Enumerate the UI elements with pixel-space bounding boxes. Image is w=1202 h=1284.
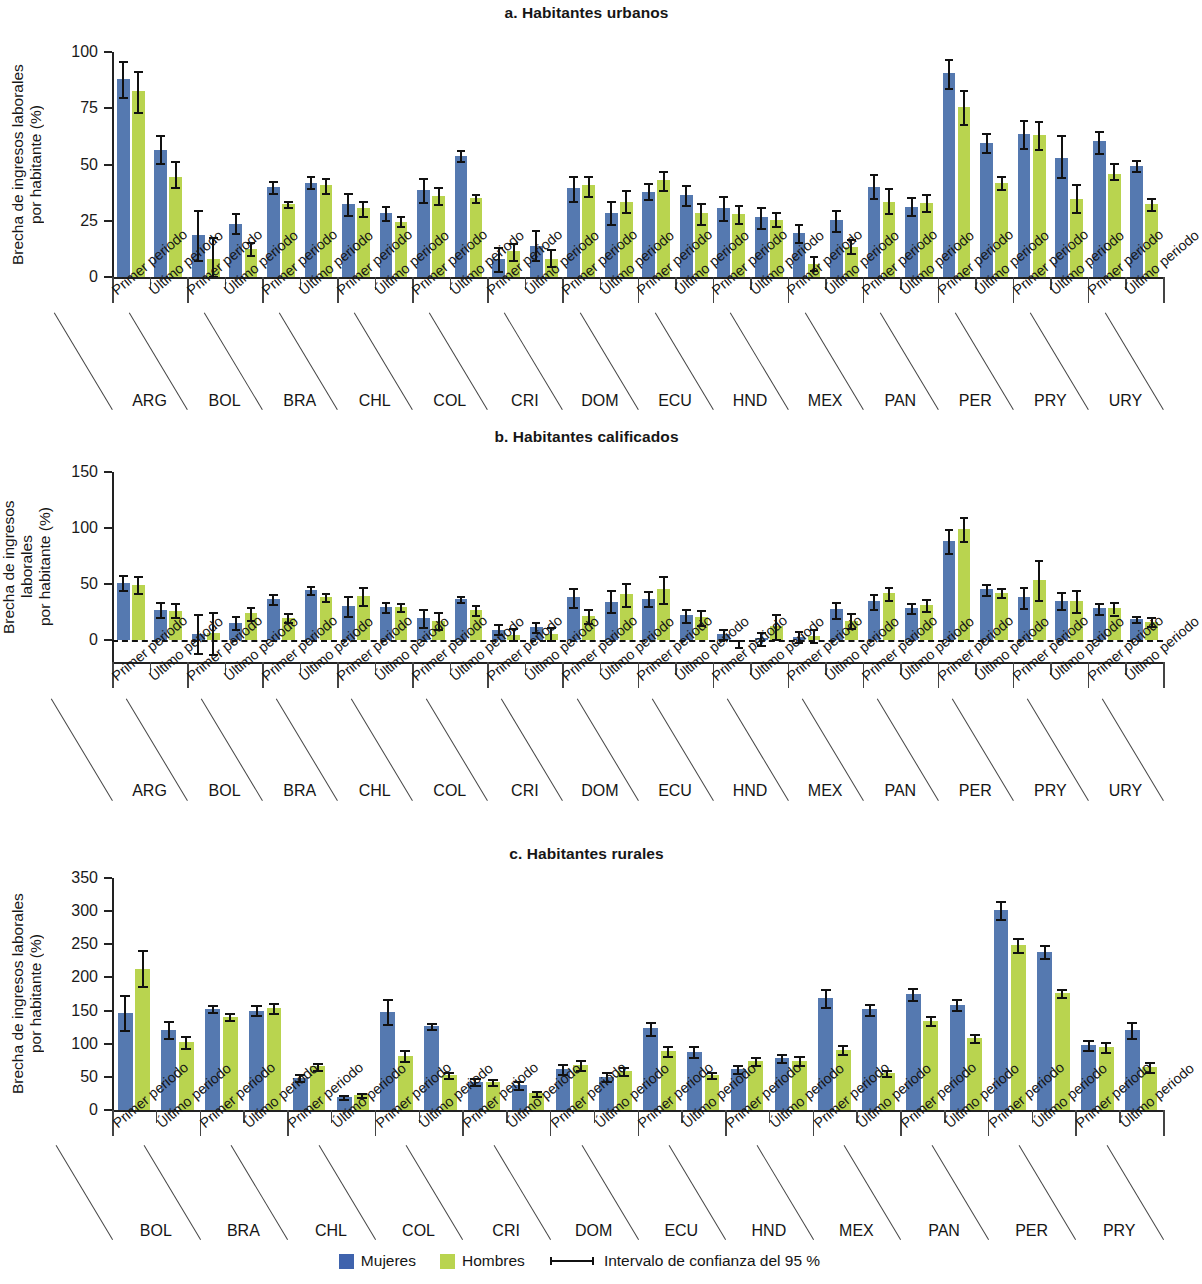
- error-bar-cap: [982, 584, 991, 586]
- error-bar-cap: [1147, 210, 1156, 212]
- error-bar-cap: [269, 181, 278, 183]
- error-bar-cap: [344, 215, 353, 217]
- error-bar-cap: [1095, 131, 1104, 133]
- x-axis-country-code: BOL: [140, 1222, 172, 1240]
- error-bar-cap: [181, 1048, 191, 1050]
- error-bar: [1038, 121, 1040, 149]
- error-bar-cap: [1035, 600, 1044, 602]
- x-axis-country-code: CRI: [511, 392, 539, 410]
- error-bar-cap: [1057, 592, 1066, 594]
- error-bar-cap: [359, 201, 368, 203]
- error-bar-cap: [119, 61, 128, 63]
- error-bar-cap: [622, 583, 631, 585]
- y-tick-label: 0: [0, 268, 98, 286]
- y-tick-mark: [104, 1109, 112, 1111]
- y-tick-label: 300: [0, 902, 98, 920]
- error-bar-cap: [269, 1003, 279, 1005]
- error-bar-cap: [997, 597, 1006, 599]
- x-axis-country-code: HND: [733, 392, 768, 410]
- error-bar-cap: [682, 205, 691, 207]
- y-tick-mark: [104, 1043, 112, 1045]
- error-bar-cap: [344, 616, 353, 618]
- error-bar-cap: [383, 1024, 393, 1026]
- x-axis-country-code: CHL: [315, 1222, 347, 1240]
- error-bar-cap: [644, 183, 653, 185]
- error-bar-cap: [960, 517, 969, 519]
- y-tick-label: 200: [0, 968, 98, 986]
- error-bar-cap: [772, 212, 781, 214]
- error-bar-cap: [1147, 198, 1156, 200]
- x-axis-country-code: BRA: [227, 1222, 260, 1240]
- error-bar-cap: [232, 616, 241, 618]
- bar-mujeres: [117, 79, 130, 277]
- x-axis-country-code: HND: [733, 782, 768, 800]
- error-bar-cap: [832, 210, 841, 212]
- error-bar-cap: [1057, 135, 1066, 137]
- error-bar-cap: [885, 587, 894, 589]
- error-bar-cap: [1095, 603, 1104, 605]
- y-tick-label: 150: [0, 463, 98, 481]
- legend-item-hombres: Hombres: [440, 1252, 525, 1270]
- error-bar: [663, 171, 665, 190]
- error-bar-cap: [419, 178, 428, 180]
- error-bar-cap: [997, 176, 1006, 178]
- error-bar-cap: [659, 576, 668, 578]
- y-tick-label: 50: [0, 156, 98, 174]
- error-bar-cap: [472, 202, 481, 204]
- error-bar-cap: [232, 233, 241, 235]
- error-bar: [873, 174, 875, 199]
- y-tick-label: 25: [0, 212, 98, 230]
- error-bar: [347, 596, 349, 616]
- error-bar-cap: [907, 603, 916, 605]
- error-bar-cap: [659, 190, 668, 192]
- error-bar: [1001, 176, 1003, 190]
- error-bar-cap: [134, 593, 143, 595]
- error-bar-cap: [171, 187, 180, 189]
- error-bar-cap: [1020, 148, 1029, 150]
- error-bar-cap: [247, 607, 256, 609]
- error-bar-cap: [997, 588, 1006, 590]
- error-bar: [738, 205, 740, 223]
- error-bar-cap: [838, 1054, 848, 1056]
- error-bar-cap: [307, 586, 316, 588]
- y-tick-label: 75: [0, 99, 98, 117]
- error-bar-cap: [1132, 171, 1141, 173]
- group-separator: [54, 312, 113, 410]
- error-bar-cap: [134, 71, 143, 73]
- error-bar-cap: [644, 606, 653, 608]
- error-bar: [385, 206, 387, 220]
- x-axis-country-code: MEX: [808, 782, 843, 800]
- error-bar: [986, 133, 988, 152]
- error-bar-cap: [359, 216, 368, 218]
- x-axis-country-code: COL: [402, 1222, 435, 1240]
- y-tick-mark: [104, 877, 112, 879]
- error-bar-cap: [926, 1025, 936, 1027]
- figure-legend: Mujeres Hombres Intervalo de confianza d…: [0, 1252, 1173, 1270]
- error-bar-cap: [138, 950, 148, 952]
- error-bar-cap: [339, 1095, 349, 1097]
- error-bar: [347, 193, 349, 216]
- chart-title-b: b. Habitantes calificados: [0, 428, 1173, 446]
- error-bar-cap: [908, 988, 918, 990]
- error-bar-cap: [960, 541, 969, 543]
- error-bar: [835, 210, 837, 231]
- error-bar-cap: [119, 590, 128, 592]
- x-axis-country-code: MEX: [839, 1222, 874, 1240]
- y-tick-mark: [104, 976, 112, 978]
- error-bar: [926, 194, 928, 211]
- error-bar-cap: [945, 59, 954, 61]
- error-bar-cap: [134, 576, 143, 578]
- error-bar: [648, 183, 650, 200]
- error-bar-cap: [576, 1060, 586, 1062]
- error-bar-cap: [663, 1046, 673, 1048]
- y-tick-mark: [104, 51, 112, 53]
- error-bar-cap: [457, 596, 466, 598]
- error-bar-cap: [870, 174, 879, 176]
- y-tick-mark: [104, 583, 112, 585]
- error-bar-cap: [307, 594, 316, 596]
- error-bar-cap: [777, 1054, 787, 1056]
- error-bar: [423, 609, 425, 627]
- error-bar-cap: [1095, 614, 1104, 616]
- error-bar: [963, 90, 965, 124]
- error-bar: [137, 71, 139, 112]
